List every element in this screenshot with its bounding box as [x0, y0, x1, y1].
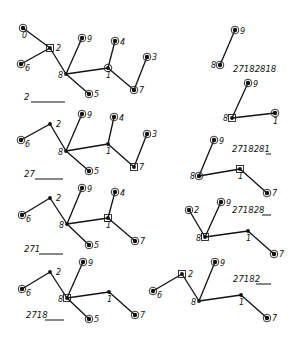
node-1: 1	[106, 142, 111, 156]
edge-8-1	[199, 295, 241, 301]
node-2: 2	[47, 44, 62, 53]
node-dot-icon	[112, 115, 116, 119]
node-dot-icon	[48, 46, 52, 50]
node-label: 2	[56, 268, 61, 277]
node-7: 7	[131, 163, 146, 172]
tree-step-3: 26894175271	[18, 184, 146, 254]
node-label: 5	[94, 241, 99, 250]
node-dot-icon	[48, 122, 52, 126]
node-2: 2	[185, 206, 199, 215]
node-7: 7	[131, 237, 146, 246]
node-8: 8	[211, 61, 224, 70]
edge-8-1	[205, 231, 248, 237]
node-dot-icon	[87, 169, 91, 173]
node-dot-icon	[81, 260, 85, 264]
node-label: 9	[220, 259, 225, 268]
node-1: 1	[271, 109, 279, 126]
node-label: 8	[58, 71, 63, 80]
node-label: 2	[56, 120, 61, 129]
prufer-sequence: 27182818	[233, 64, 277, 74]
node-dot-icon	[145, 55, 149, 59]
node-dot-icon	[19, 138, 23, 142]
edge-8-9	[220, 30, 235, 65]
node-dot-icon	[187, 208, 191, 212]
node-label: 7	[140, 237, 146, 246]
node-1: 1	[104, 64, 112, 80]
node-dot-icon	[80, 112, 84, 116]
node-2: 2	[48, 268, 61, 277]
node-1: 1	[246, 229, 251, 243]
tree-step-8: 981	[223, 79, 279, 126]
node-dot-icon	[87, 243, 91, 247]
node-label: 9	[87, 35, 92, 44]
edge-8-5	[67, 224, 89, 245]
node-dot-icon	[233, 28, 237, 32]
edge-8-9	[67, 188, 82, 224]
edge-1-7	[241, 295, 267, 318]
edge-8-1	[67, 218, 108, 224]
node-label: 2	[56, 44, 61, 53]
prufer-sequence: 27	[24, 169, 35, 179]
node-8: 8	[58, 71, 68, 80]
node-label: 8	[58, 295, 63, 304]
edge-1-7	[240, 169, 267, 193]
node-label: 1	[106, 221, 111, 230]
tree-step-1: 02689413752	[17, 24, 157, 102]
node-dot-icon	[48, 196, 52, 200]
edge-8-1	[67, 292, 109, 298]
node-label: 2	[56, 194, 61, 203]
edge-1-7	[108, 68, 134, 90]
node-dot-icon	[230, 116, 234, 120]
node-label: 1	[246, 234, 251, 243]
node-1: 1	[239, 293, 244, 307]
edge-1-7	[248, 231, 274, 254]
node-label: 7	[139, 86, 145, 95]
edge-8-1	[66, 144, 108, 151]
tree-step-6: 29817271828	[185, 198, 285, 259]
edge-8-9	[66, 38, 82, 74]
node-label: 1	[106, 147, 111, 156]
node-5: 5	[85, 90, 99, 99]
node-label: 8	[191, 298, 196, 307]
node-label: 9	[87, 111, 92, 120]
node-dot-icon	[246, 229, 250, 233]
node-label: 9	[219, 137, 224, 146]
node-dot-icon	[180, 272, 184, 276]
node-dot-icon	[64, 72, 68, 76]
node-7: 7	[263, 189, 278, 198]
node-dot-icon	[273, 111, 277, 115]
node-dot-icon	[106, 66, 110, 70]
node-dot-icon	[151, 289, 155, 293]
edge-8-1	[199, 169, 240, 176]
node-dot-icon	[133, 313, 137, 317]
node-0: 0	[19, 24, 27, 40]
node-dot-icon	[246, 81, 250, 85]
node-dot-icon	[20, 287, 24, 291]
node-1: 1	[107, 290, 112, 304]
node-label: 2	[188, 270, 193, 279]
node-label: 9	[226, 199, 231, 208]
node-label: 3	[152, 130, 157, 139]
node-dot-icon	[20, 213, 24, 217]
prufer-diagram: 0268941375226894137527268941752712689175…	[0, 0, 298, 347]
node-dot-icon	[113, 39, 117, 43]
edge-1-7	[108, 218, 135, 241]
node-label: 9	[87, 185, 92, 194]
node-dot-icon	[106, 142, 110, 146]
node-dot-icon	[197, 299, 201, 303]
tree-step-5: 26891727182	[149, 258, 278, 323]
node-label: 6	[25, 140, 30, 149]
node-label: 0	[22, 31, 27, 40]
node-label: 5	[94, 90, 99, 99]
node-dot-icon	[238, 167, 242, 171]
node-label: 1	[273, 117, 278, 126]
edge-2-6	[21, 124, 50, 140]
node-label: 9	[88, 259, 93, 268]
node-3: 3	[143, 130, 157, 139]
node-label: 7	[139, 163, 145, 172]
prufer-sequence: 2	[24, 92, 29, 102]
node-7: 7	[263, 314, 278, 323]
node-dot-icon	[87, 317, 91, 321]
node-dot-icon	[65, 296, 69, 300]
node-2: 2	[179, 270, 194, 279]
